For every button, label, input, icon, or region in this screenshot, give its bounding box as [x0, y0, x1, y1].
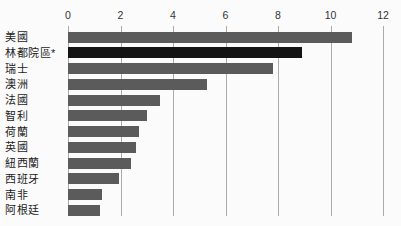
category-label: 智利 — [5, 110, 65, 122]
x-tick-label: 2 — [118, 9, 124, 21]
bar — [68, 158, 131, 169]
category-label: 阿根廷 — [5, 204, 65, 216]
x-tick-label: 6 — [223, 9, 229, 21]
x-tick-label: 0 — [65, 9, 71, 21]
bar — [68, 63, 273, 74]
category-label: 荷蘭 — [5, 126, 65, 138]
category-label: 法國 — [5, 94, 65, 106]
category-label: 南非 — [5, 189, 65, 201]
bar — [68, 126, 139, 137]
bar-chart: 024681012 美國林都院區*瑞士澳洲法國智利荷蘭英國紐西蘭西班牙南非阿根廷 — [0, 0, 401, 226]
bar — [68, 79, 207, 90]
bar — [68, 205, 100, 216]
category-label: 美國 — [5, 31, 65, 43]
gridline — [383, 26, 384, 216]
x-tick-label: 10 — [325, 9, 337, 21]
x-tick-label: 12 — [377, 9, 389, 21]
category-label: 澳洲 — [5, 78, 65, 90]
x-tick-label: 8 — [275, 9, 281, 21]
category-label: 瑞士 — [5, 63, 65, 75]
bar — [68, 189, 102, 200]
bar — [68, 95, 160, 106]
gridline — [331, 26, 332, 216]
x-tick-label: 4 — [170, 9, 176, 21]
category-label: 西班牙 — [5, 173, 65, 185]
bar — [68, 32, 352, 43]
category-label: 英國 — [5, 141, 65, 153]
bar-highlighted — [68, 47, 302, 58]
bar — [68, 110, 147, 121]
category-label: 林都院區* — [5, 47, 65, 59]
category-label: 紐西蘭 — [5, 157, 65, 169]
bar — [68, 173, 119, 184]
bar — [68, 142, 136, 153]
